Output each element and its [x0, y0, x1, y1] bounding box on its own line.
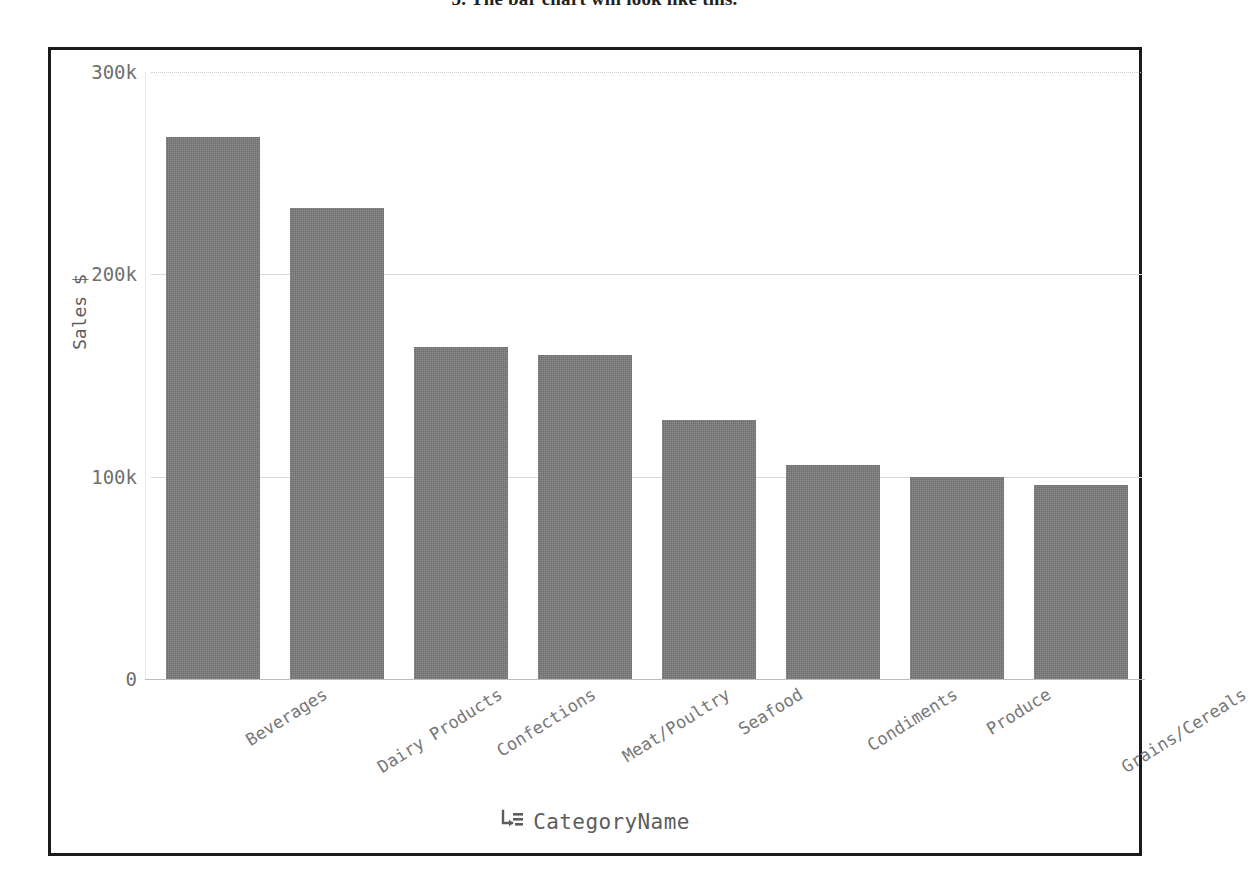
- x-axis-title: CategoryName: [51, 809, 1139, 835]
- bar[interactable]: [414, 347, 508, 679]
- x-tick-label: Confections: [493, 684, 599, 761]
- bar-slot: [895, 72, 1019, 679]
- plot-area: 0100k200k300k BeveragesDairy ProductsCon…: [151, 72, 1143, 679]
- bar-slot: [151, 72, 275, 679]
- x-tick-label-text: Meat/Poultry: [619, 684, 734, 766]
- document-heading-text: 5. The bar chart will look like this.: [452, 0, 738, 9]
- x-tick-label-text: Beverages: [242, 684, 331, 750]
- x-tick-label: Beverages: [242, 684, 331, 750]
- bar[interactable]: [786, 465, 880, 679]
- x-tick-label: Produce: [983, 684, 1054, 739]
- x-axis-baseline: [145, 679, 1145, 680]
- y-tick-label: 100k: [91, 466, 137, 488]
- x-tick-label-text: Grains/Cereals: [1118, 684, 1250, 777]
- chart-figure-frame: Sales $ 0100k200k300k BeveragesDairy Pro…: [48, 47, 1142, 856]
- bar[interactable]: [290, 208, 384, 679]
- x-tick-label-text: Condiments: [863, 684, 960, 755]
- x-tick-label: Meat/Poultry: [619, 684, 734, 766]
- bar-chart-canvas: Sales $ 0100k200k300k BeveragesDairy Pro…: [51, 50, 1139, 853]
- group-by-icon: [500, 809, 524, 835]
- y-axis-title: Sales $: [69, 274, 90, 350]
- x-tick-label-text: Produce: [983, 684, 1054, 739]
- bar[interactable]: [1034, 485, 1128, 679]
- x-tick-label: Dairy Products: [374, 684, 506, 777]
- x-tick-label-text: Seafood: [735, 684, 806, 739]
- bar-slot: [275, 72, 399, 679]
- bar-slot: [523, 72, 647, 679]
- x-tick-label: Grains/Cereals: [1118, 684, 1250, 777]
- bar[interactable]: [662, 420, 756, 679]
- x-tick-label-text: Confections: [493, 684, 599, 761]
- x-tick-label-text: Dairy Products: [374, 684, 506, 777]
- bars-group: [151, 72, 1143, 679]
- bar-slot: [647, 72, 771, 679]
- bar-slot: [1019, 72, 1143, 679]
- bar-slot: [399, 72, 523, 679]
- x-tick-label: Seafood: [735, 684, 806, 739]
- x-tick-label: Condiments: [863, 684, 960, 755]
- bar[interactable]: [166, 137, 260, 679]
- y-tick-label: 0: [126, 668, 137, 690]
- y-tick-label: 200k: [91, 263, 137, 285]
- y-axis-line: [145, 72, 146, 679]
- bar-slot: [771, 72, 895, 679]
- x-axis-title-text: CategoryName: [533, 810, 690, 834]
- bar[interactable]: [910, 477, 1004, 679]
- y-tick-label: 300k: [91, 61, 137, 83]
- bar[interactable]: [538, 355, 632, 679]
- document-heading: 5. The bar chart will look like this.: [0, 0, 1189, 14]
